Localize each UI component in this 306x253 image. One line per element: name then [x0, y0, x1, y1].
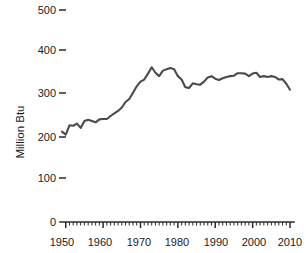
line-chart: Million Btu 500 400 300 200 100: [0, 0, 306, 253]
x-tick-label-2010: 2010: [278, 236, 302, 248]
x-tick-label-2000: 2000: [242, 236, 266, 248]
x-tick-label-1980: 1980: [165, 236, 189, 248]
x-axis-labels: 1950 1960 1970 1980 1990 2000 2010: [50, 236, 302, 248]
x-tick-label-1960: 1960: [88, 236, 112, 248]
y-tick-label-200: 200: [38, 131, 56, 143]
y-tick-100: 100: [38, 172, 66, 184]
y-tick-label-300: 300: [38, 87, 56, 99]
x-axis-tick-marks: [66, 222, 290, 228]
y-tick-400: 400: [38, 44, 66, 56]
x-tick-label-1990: 1990: [204, 236, 228, 248]
x-tick-label-1950: 1950: [50, 236, 74, 248]
chart-container: Million Btu 500 400 300 200 100: [0, 0, 306, 253]
y-tick-label-0: 0: [50, 216, 56, 228]
x-tick-label-1970: 1970: [127, 236, 151, 248]
y-axis-title: Million Btu: [14, 105, 26, 158]
y-tick-label-400: 400: [38, 44, 56, 56]
y-tick-label-100: 100: [38, 172, 56, 184]
y-tick-label-500: 500: [38, 4, 56, 16]
y-axis-ticks: 500 400 300 200 100 0: [38, 4, 66, 228]
y-tick-500: 500: [38, 4, 66, 16]
data-series-line: [62, 67, 290, 134]
y-tick-0: 0: [50, 216, 56, 228]
y-tick-300: 300: [38, 87, 66, 99]
